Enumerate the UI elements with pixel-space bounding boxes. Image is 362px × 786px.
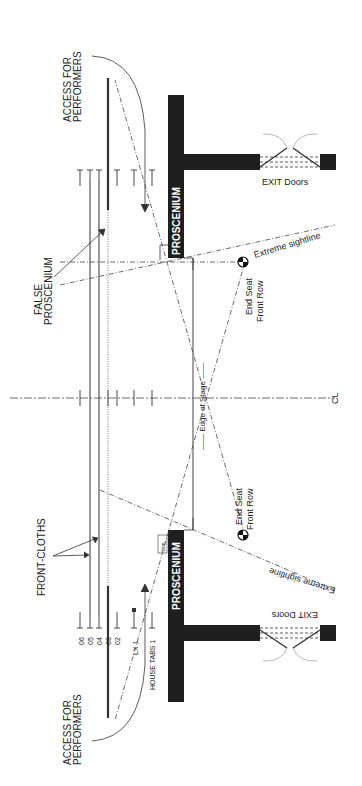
bar-number-04: 04 <box>96 637 103 645</box>
access-label-bottom-2: PERFORMERS <box>72 694 83 765</box>
end-seat-marker-bottom <box>238 530 248 540</box>
bar-number-06: 06 <box>78 637 85 645</box>
proscenium-label-top: PROSCENIUM <box>171 187 182 255</box>
lx1-marker <box>132 608 136 612</box>
end-seat-label-bottom-1: End Seat <box>234 487 244 525</box>
front-cloths-label: FRONT-CLOTHS <box>36 518 47 596</box>
false-proscenium-label-2: PROSCENIUM <box>43 257 54 325</box>
end-seat-label-top-1: End Seat <box>244 277 254 315</box>
exit-doors-label-top: EXIT Doors <box>262 177 309 187</box>
bracket-top-stage <box>184 258 193 270</box>
end-seat-label-bottom-2: Front Row <box>245 488 255 530</box>
access-label-top-2: PERFORMERS <box>72 51 83 122</box>
front-cloths-arrows <box>53 537 98 558</box>
sightline-label-top: Extreme sightline <box>253 230 322 260</box>
proscenium-label-bottom: PROSCENIUM <box>171 542 182 610</box>
exit-doors-bottom <box>260 628 320 661</box>
access-arrow-bottom <box>92 584 149 741</box>
edge-of-stage-label: —— Edge of Stage —— <box>198 363 207 450</box>
exit-doors-label-bottom: EXIT Doors <box>271 610 318 620</box>
bar-number-05: 05 <box>87 637 94 645</box>
bar-number-03: 03 <box>105 637 112 645</box>
end-seat-marker-top <box>238 257 248 267</box>
centreline-label: CL <box>330 392 340 404</box>
false-proscenium-arrow <box>54 229 105 277</box>
access-arrow-top <box>92 56 149 212</box>
exit-doors-top <box>260 134 320 167</box>
sightline-label-bottom: Extreme sightline <box>268 566 337 596</box>
bracket-bottom-stage <box>184 518 193 530</box>
bar-number-02: 02 <box>114 637 121 645</box>
house-tabs-label: HOUSE TABS 1 <box>149 640 156 690</box>
stage-plan-diagram: PROSCENIUM PROSCENIUM EXIT Doors EXIT Do… <box>0 0 362 786</box>
end-seat-label-top-2: Front Row <box>255 280 265 322</box>
